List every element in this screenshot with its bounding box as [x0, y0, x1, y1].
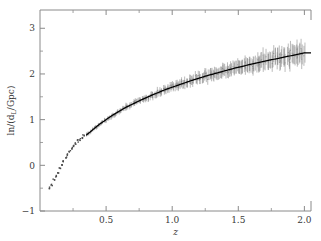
y-axis-label: ln/(dL/Gpc) — [6, 86, 18, 136]
chart-canvas: 0.51.01.52.0−10123zln/(dL/Gpc) — [0, 0, 321, 241]
y-tick-label: 3 — [29, 23, 35, 33]
y-tick-label: 2 — [29, 69, 35, 79]
x-tick-label: 0.5 — [99, 215, 114, 225]
x-tick-label: 2.0 — [297, 215, 312, 225]
y-tick-label: −1 — [22, 206, 35, 216]
y-tick-label: 1 — [29, 115, 35, 125]
x-tick-label: 1.0 — [165, 215, 180, 225]
plot-background — [40, 10, 311, 211]
x-axis-label: z — [172, 227, 178, 237]
y-tick-label: 0 — [29, 161, 35, 171]
x-tick-label: 1.5 — [231, 215, 246, 225]
figure-container: 0.51.01.52.0−10123zln/(dL/Gpc) — [0, 0, 321, 241]
